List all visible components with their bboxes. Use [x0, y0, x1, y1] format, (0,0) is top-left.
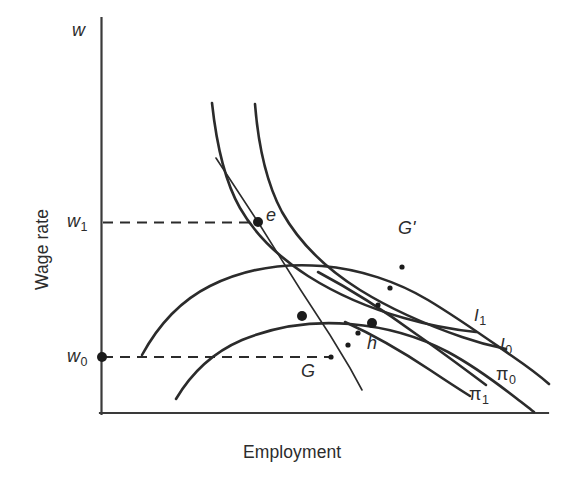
y-tick-w1-subscript: 1 [81, 220, 88, 234]
y-tick-w0-base: w [67, 346, 80, 366]
point-label-e: e [266, 206, 276, 224]
gprime-dot-1 [399, 264, 404, 269]
gprime-dot-2 [387, 285, 392, 290]
curve-label-pi1-subscript: 1 [482, 393, 489, 407]
curve-label-pi0: π0 [496, 365, 515, 383]
point-h-dot [367, 318, 377, 328]
point-e-dot [253, 217, 263, 227]
y-axis-title-wrapper: Wage rate [34, 209, 52, 290]
point-label-h: h [367, 334, 377, 352]
point-intersection-mid-dot [297, 311, 307, 321]
gprime-dot-3 [375, 302, 380, 307]
curve-label-I0: I0 [500, 336, 512, 353]
curve-label-I1-subscript: 1 [479, 314, 486, 328]
y-tick-w1-base: w [67, 211, 80, 231]
curve-label-I1: I1 [474, 307, 486, 324]
y-tick-w0-subscript: 0 [81, 355, 88, 369]
gprime-dot-5 [345, 342, 350, 347]
gprime-dot-6 [328, 354, 333, 359]
contract-curve-label-G: G [301, 362, 315, 380]
w0-axis-dot [97, 352, 107, 362]
economics-figure: w Wage rate Employment w1 w0 e h G G' I1… [0, 0, 574, 477]
y-tick-label-w0: w0 [67, 347, 87, 365]
curve-label-pi0-subscript: 0 [509, 373, 516, 387]
gprime-dot-4 [355, 330, 360, 335]
y-axis-title: Wage rate [32, 209, 52, 290]
indifference-curve-I1 [212, 103, 476, 332]
y-axis-variable-symbol: w [72, 21, 85, 39]
axes-group [100, 18, 548, 414]
y-tick-label-w1: w1 [67, 212, 87, 230]
indifference-curve-I0 [255, 104, 506, 349]
curve-label-pi1-base: π [469, 384, 481, 404]
tick-guides-group [97, 223, 330, 363]
curve-label-I0-subscript: 0 [505, 343, 512, 357]
contract-curve-label-Gprime: G' [398, 219, 415, 237]
curve-label-pi1: π1 [469, 385, 488, 403]
x-axis-title: Employment [243, 444, 341, 462]
curve-label-pi0-base: π [496, 364, 508, 384]
isoprofit-pi0-right-branch [318, 272, 486, 385]
